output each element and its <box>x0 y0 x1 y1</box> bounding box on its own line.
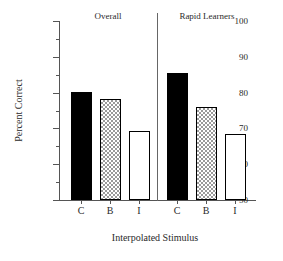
x-tick <box>235 200 236 204</box>
x-tick <box>139 200 140 204</box>
x-tick-label: I <box>129 206 149 216</box>
bar-rapid-learners-C <box>167 73 188 200</box>
y-tick-label: 80 <box>239 89 248 98</box>
bar-overall-I <box>129 131 150 200</box>
x-tick-label: C <box>167 206 187 216</box>
y-tick-major <box>53 200 59 201</box>
x-tick <box>206 200 207 204</box>
x-tick <box>177 200 178 204</box>
y-tick-label: 70 <box>239 124 248 133</box>
y-tick-minor <box>56 39 59 40</box>
y-tick-major <box>53 21 59 22</box>
x-tick-label: I <box>225 206 245 216</box>
x-tick-label: C <box>71 206 91 216</box>
bar-chart-figure: Percent Correct Interpolated Stimulus Ov… <box>0 0 283 261</box>
y-tick-major <box>53 57 59 58</box>
x-tick <box>81 200 82 204</box>
panel-title-overall: Overall <box>59 11 157 21</box>
y-tick-label: 90 <box>239 53 248 62</box>
x-axis-label: Interpolated Stimulus <box>40 232 270 243</box>
y-tick-major <box>53 128 59 129</box>
y-tick-minor <box>56 75 59 76</box>
y-axis-label: Percent Correct <box>13 46 24 176</box>
x-tick <box>110 200 111 204</box>
y-tick-minor <box>56 182 59 183</box>
bar-rapid-learners-B <box>196 107 217 200</box>
bar-overall-C <box>71 92 92 200</box>
bar-overall-B <box>100 99 121 200</box>
bar-rapid-learners-I <box>225 134 246 200</box>
y-tick-major <box>53 93 59 94</box>
y-tick-label: 100 <box>235 17 249 26</box>
x-tick-label: B <box>196 206 216 216</box>
y-tick-major <box>53 164 59 165</box>
x-tick-label: B <box>100 206 120 216</box>
y-tick-minor <box>56 111 59 112</box>
plot-area: 1009080706050CBICBI <box>59 21 256 200</box>
y-tick-minor <box>56 146 59 147</box>
